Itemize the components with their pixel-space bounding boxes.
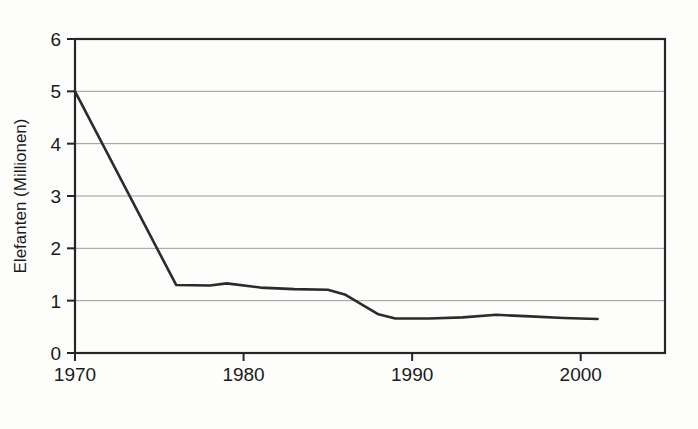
x-axis-tick-label: 1970 [54,364,96,385]
y-axis-tick-label: 6 [50,29,61,50]
y-axis-tick-label: 4 [50,134,61,155]
chart-figure: 0123456 1970198019902000 Elefanten (Mill… [0,0,698,429]
y-axis-tick-label: 3 [50,186,61,207]
y-axis-title: Elefanten (Millionen) [11,119,30,274]
x-axis-tick-label: 1990 [391,364,433,385]
y-axis-tick-label: 0 [50,343,61,364]
y-axis-tick-label: 1 [50,291,61,312]
y-axis-tick-label: 2 [50,238,61,259]
x-axis-tick-label: 1980 [222,364,264,385]
line-chart: 0123456 1970198019902000 Elefanten (Mill… [0,0,698,429]
y-axis-tick-label: 5 [50,81,61,102]
x-axis-tick-label: 2000 [560,364,602,385]
